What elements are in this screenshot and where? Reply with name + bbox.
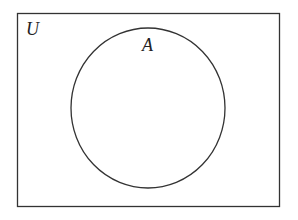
universal-set-label: U — [26, 19, 40, 39]
set-a-label: A — [141, 35, 154, 55]
venn-diagram: U A — [0, 0, 298, 220]
